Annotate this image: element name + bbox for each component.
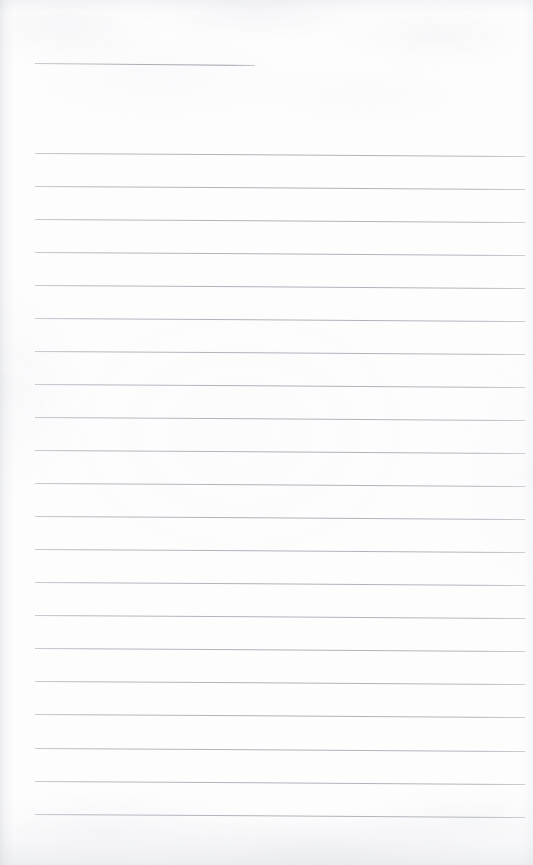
ruled-line-8 — [35, 384, 525, 388]
ruled-line-7 — [35, 351, 525, 355]
ruled-line-5 — [35, 285, 525, 289]
ruled-line-16 — [35, 648, 525, 652]
ruled-line-4 — [35, 252, 525, 256]
ruled-line-20 — [35, 781, 525, 785]
ruled-line-18 — [35, 714, 525, 718]
ruled-line-11 — [35, 483, 525, 487]
ruled-line-13 — [35, 549, 525, 553]
ruled-line-21 — [35, 814, 525, 818]
ruled-line-14 — [35, 582, 525, 586]
header-underline — [35, 63, 255, 66]
ruled-line-17 — [35, 681, 525, 685]
scanned-page — [0, 0, 533, 865]
ruled-line-9 — [35, 417, 525, 421]
ruled-line-6 — [35, 318, 525, 322]
ruled-line-19 — [35, 748, 525, 752]
ruled-line-10 — [35, 450, 525, 454]
ruled-line-3 — [35, 219, 525, 223]
ruled-line-12 — [35, 516, 525, 520]
ruled-line-15 — [35, 615, 525, 619]
ruled-line-2 — [35, 186, 525, 190]
ruled-line-1 — [35, 153, 525, 157]
page-content-area — [0, 0, 533, 865]
